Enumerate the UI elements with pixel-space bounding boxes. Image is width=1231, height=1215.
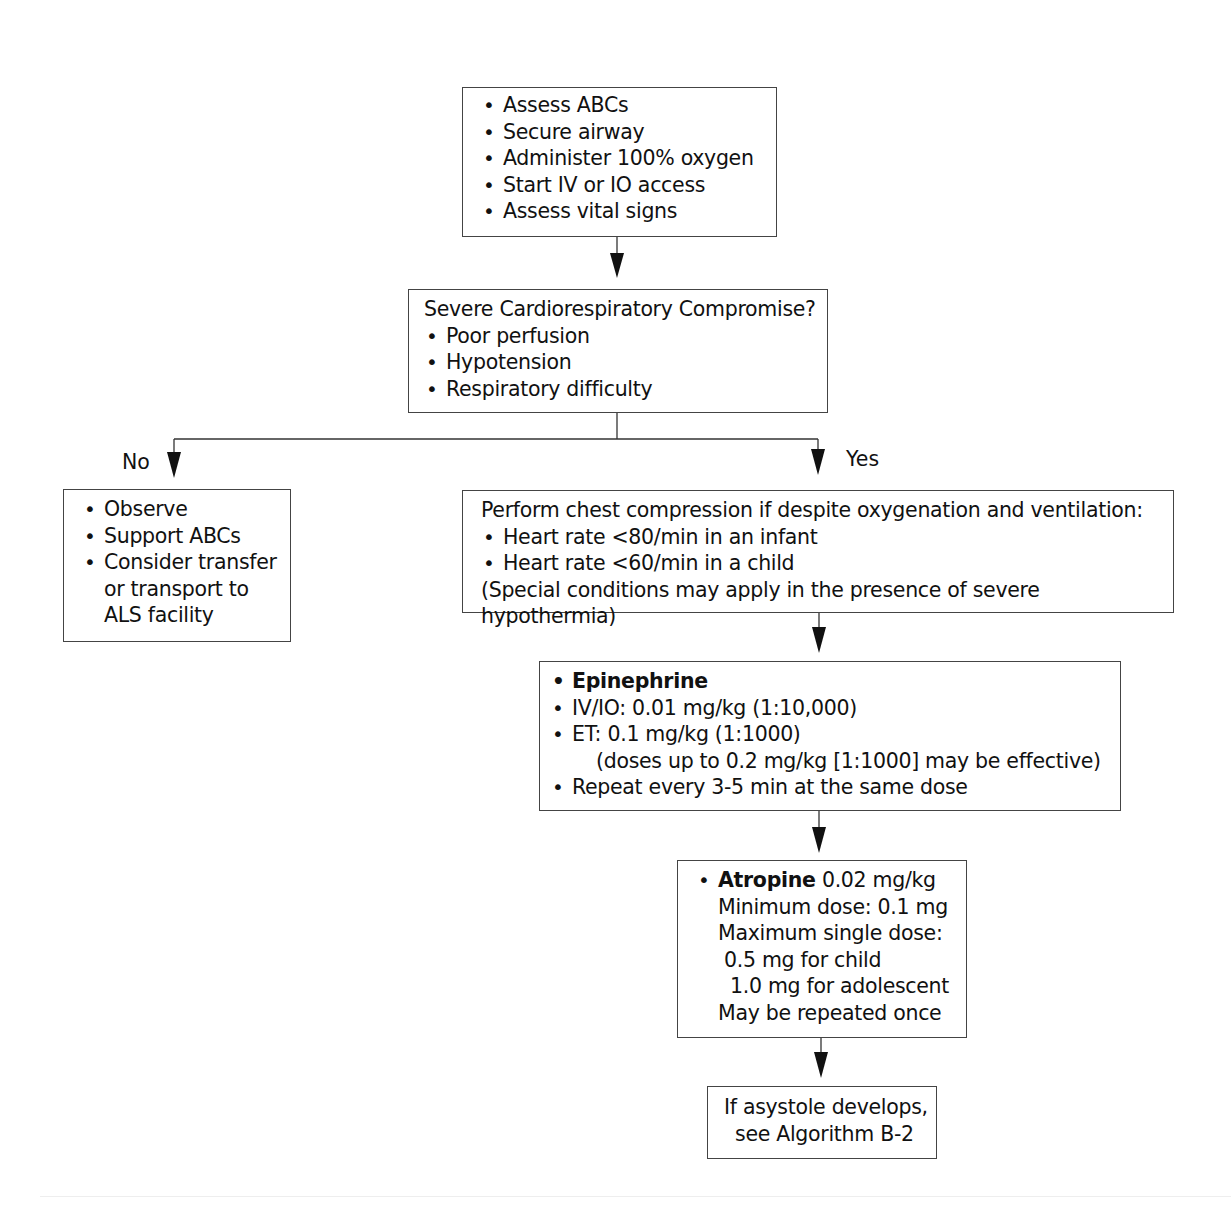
list-item: Respiratory difficulty — [424, 376, 827, 403]
list-item: Support ABCs — [82, 523, 290, 550]
list-item: Secure airway — [481, 119, 776, 146]
continuation-line: or transport to — [104, 576, 290, 603]
arrow-down-icon — [167, 452, 181, 478]
arrow-down-icon — [610, 253, 624, 278]
epinephrine-repeat-list: Repeat every 3-5 min at the same dose — [550, 774, 1120, 801]
compression-note: (Special conditions may apply in the pre… — [481, 577, 1173, 630]
initial-assessment-box: Assess ABCs Secure airway Administer 100… — [462, 87, 777, 237]
atropine-details: Minimum dose: 0.1 mg Maximum single dose… — [696, 894, 966, 1027]
chest-compression-box: Perform chest compression if despite oxy… — [462, 490, 1174, 613]
list-item: ET: 0.1 mg/kg (1:1000) — [550, 721, 1120, 748]
list-item: IV/IO: 0.01 mg/kg (1:10,000) — [550, 695, 1120, 722]
arrow-down-icon — [814, 1052, 828, 1078]
atropine-title: Atropine — [718, 868, 816, 892]
list-item: Observe — [82, 496, 290, 523]
decision-question: Severe Cardiorespiratory Compromise? — [424, 296, 827, 323]
no-branch-continuation: or transport to ALS facility — [82, 576, 290, 629]
epinephrine-list: Epinephrine — [550, 668, 1120, 695]
list-item: Consider transfer — [82, 549, 290, 576]
asystole-line-2: see Algorithm B-2 — [724, 1121, 936, 1148]
atropine-max-adolescent: 1.0 mg for adolescent — [718, 973, 966, 1000]
epinephrine-box: Epinephrine IV/IO: 0.01 mg/kg (1:10,000)… — [539, 661, 1121, 811]
page-edge-divider — [40, 1196, 1231, 1197]
arrow-down-icon — [812, 627, 826, 653]
compression-intro: Perform chest compression if despite oxy… — [481, 497, 1173, 524]
list-item: Heart rate <80/min in an infant — [481, 524, 1173, 551]
initial-assessment-list: Assess ABCs Secure airway Administer 100… — [481, 92, 776, 225]
list-item: Start IV or IO access — [481, 172, 776, 199]
continuation-line: ALS facility — [104, 602, 290, 629]
epinephrine-dosing-list: IV/IO: 0.01 mg/kg (1:10,000) ET: 0.1 mg/… — [550, 695, 1120, 748]
epinephrine-et-note: (doses up to 0.2 mg/kg [1:1000] may be e… — [596, 748, 1120, 775]
atropine-dose: 0.02 mg/kg — [816, 868, 936, 892]
list-item: Assess ABCs — [481, 92, 776, 119]
list-item: Repeat every 3-5 min at the same dose — [550, 774, 1120, 801]
no-branch-box: Observe Support ABCs Consider transfer o… — [63, 489, 291, 642]
compression-criteria-list: Heart rate <80/min in an infant Heart ra… — [481, 524, 1173, 577]
list-item: Assess vital signs — [481, 198, 776, 225]
atropine-repeat: May be repeated once — [718, 1000, 966, 1027]
arrow-down-icon — [812, 827, 826, 853]
arrow-down-icon — [811, 449, 825, 475]
atropine-list: Atropine 0.02 mg/kg — [696, 867, 966, 894]
edge-label-yes: Yes — [846, 447, 879, 471]
asystole-box: If asystole develops, see Algorithm B-2 — [707, 1086, 937, 1159]
edge-label-no: No — [122, 450, 150, 474]
decision-box: Severe Cardiorespiratory Compromise? Poo… — [408, 289, 828, 413]
epinephrine-title: Epinephrine — [550, 668, 1120, 695]
atropine-min-dose: Minimum dose: 0.1 mg — [718, 894, 966, 921]
decision-criteria-list: Poor perfusion Hypotension Respiratory d… — [424, 323, 827, 403]
asystole-line-1: If asystole develops, — [724, 1094, 936, 1121]
list-item: Administer 100% oxygen — [481, 145, 776, 172]
no-branch-list: Observe Support ABCs Consider transfer — [82, 496, 290, 576]
list-item: Hypotension — [424, 349, 827, 376]
atropine-max-label: Maximum single dose: — [718, 920, 966, 947]
list-item: Poor perfusion — [424, 323, 827, 350]
atropine-max-child: 0.5 mg for child — [718, 947, 966, 974]
atropine-dose-line: Atropine 0.02 mg/kg — [696, 867, 966, 894]
list-item: Heart rate <60/min in a child — [481, 550, 1173, 577]
atropine-box: Atropine 0.02 mg/kg Minimum dose: 0.1 mg… — [677, 860, 967, 1038]
